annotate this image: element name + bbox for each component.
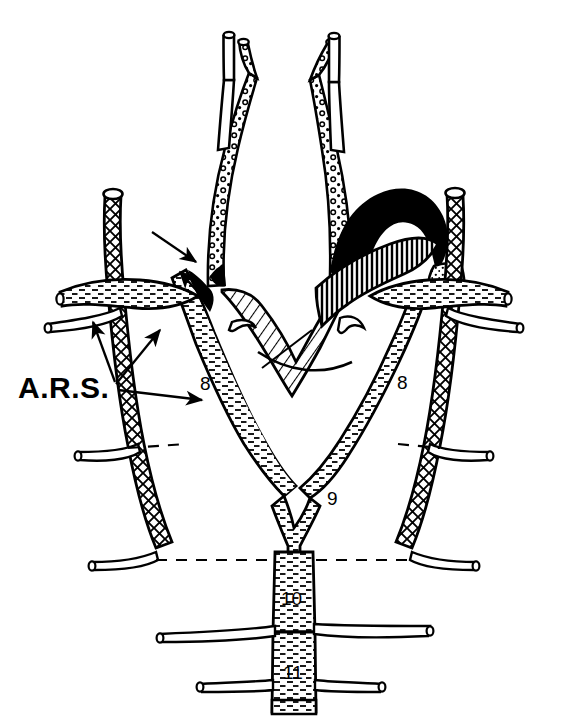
left-carotid-inner-tip	[224, 32, 235, 38]
trunk-bottom-cap	[272, 700, 316, 714]
right-branch-trunk-upper	[314, 624, 430, 637]
branch-cap-3	[75, 451, 82, 460]
branch-cap-11	[56, 293, 63, 304]
branch-cap-6	[473, 561, 480, 570]
branch-cap-4	[487, 451, 494, 460]
left-vertebral-tip	[104, 189, 123, 199]
branch-cap-12	[504, 293, 511, 304]
diagram-page: A.R.S. 8 8 9 10 11	[0, 0, 569, 722]
label-10: 10	[281, 588, 302, 609]
label-9: 9	[327, 488, 338, 509]
branch-cap-1	[45, 323, 52, 332]
anatomical-figure: A.R.S. 8 8 9 10 11	[0, 0, 569, 722]
right-carotid-inner-stem	[329, 37, 340, 82]
branch-cap-7	[157, 633, 164, 642]
branch-cap-2	[517, 323, 524, 332]
label-right-8: 8	[397, 372, 408, 393]
branch-cap-5	[89, 561, 96, 570]
branch-cap-10	[379, 682, 386, 691]
right-vertebral-tip	[446, 188, 465, 198]
left-carotid-outer-tip	[238, 39, 248, 45]
right-carotid-inner-tip	[329, 33, 340, 39]
left-carotid-inner-stem	[224, 36, 235, 80]
ars-label: A.R.S.	[18, 371, 109, 404]
branch-cap-8	[427, 626, 434, 635]
label-11: 11	[283, 662, 303, 683]
label-left-8: 8	[200, 373, 211, 394]
branch-cap-9	[197, 682, 204, 691]
